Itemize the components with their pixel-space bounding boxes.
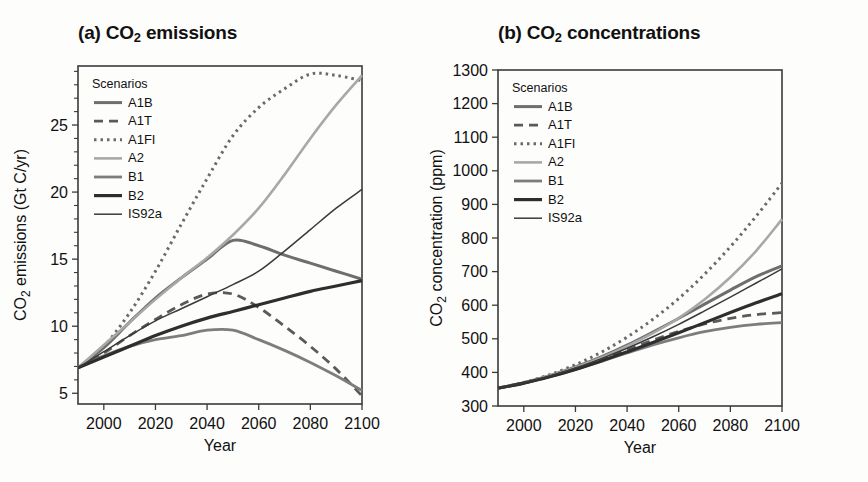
x-tick-label: 2040 [189,415,225,432]
series-line-a1t [498,313,782,389]
legend-label-is92a: IS92a [128,206,163,221]
legend-title: Scenarios [92,77,148,91]
series-line-a1fi [78,73,362,368]
x-axis-title: Year [204,437,237,454]
y-tick-label: 10 [50,318,68,335]
x-tick-label: 2080 [293,415,329,432]
y-axis-title: CO2 emissions (Gt C/yr) [12,149,33,321]
plot-frame [78,66,362,404]
panel-co2-concentrations: (b) CO2 concentrations 30040050060070080… [430,0,868,482]
y-tick-label: 900 [461,196,488,213]
y-tick-label: 25 [50,117,68,134]
series-line-is92a [78,189,362,367]
panel-a-plot: 510152025200020202040206020802100YearCO2… [0,0,440,482]
x-axis-title: Year [624,439,657,456]
figure-container: (a) CO2 emissions 5101520252000202020402… [0,0,868,482]
legend-label-a1t: A1T [128,113,152,128]
x-tick-label: 2000 [86,415,122,432]
x-tick-label: 2020 [558,417,594,434]
x-tick-label: 2000 [506,417,542,434]
legend-label-is92a: IS92a [548,210,583,225]
panel-b-plot: 3004005006007008009001000110012001300200… [430,0,868,482]
y-tick-label: 1200 [452,95,488,112]
legend-label-a1t: A1T [548,117,572,132]
y-tick-label: 20 [50,184,68,201]
legend-label-a1fi: A1FI [128,132,155,147]
x-tick-label: 2060 [241,415,277,432]
y-tick-label: 800 [461,230,488,247]
series-line-b2 [78,281,362,368]
x-tick-label: 2100 [344,415,380,432]
legend-label-b2: B2 [548,192,564,207]
y-tick-label: 5 [59,385,68,402]
y-tick-label: 1000 [452,162,488,179]
legend-label-b2: B2 [128,188,144,203]
legend-label-a1b: A1B [128,95,153,110]
x-tick-label: 2060 [661,417,697,434]
legend-label-a1fi: A1FI [548,136,575,151]
legend-label-a2: A2 [128,150,144,165]
y-axis-title: CO2 concentration (ppm) [428,149,449,326]
y-tick-label: 500 [461,330,488,347]
plot-frame [498,70,782,406]
legend-title: Scenarios [512,81,568,95]
legend-label-a2: A2 [548,154,564,169]
y-tick-label: 1300 [452,62,488,79]
panel-co2-emissions: (a) CO2 emissions 5101520252000202020402… [0,0,440,482]
legend-label-b1: B1 [548,173,564,188]
y-tick-label: 600 [461,297,488,314]
y-tick-label: 400 [461,364,488,381]
y-tick-label: 700 [461,263,488,280]
y-tick-label: 1100 [454,129,489,146]
y-tick-label: 15 [50,251,68,268]
legend-label-a1b: A1B [548,99,573,114]
legend-label-b1: B1 [128,169,144,184]
series-line-a1t [78,293,362,396]
x-tick-label: 2040 [609,417,645,434]
x-tick-label: 2080 [713,417,749,434]
x-tick-label: 2100 [764,417,800,434]
series-line-a2 [498,219,782,388]
series-line-b1 [78,329,362,390]
y-tick-label: 300 [461,398,488,415]
x-tick-label: 2020 [138,415,174,432]
